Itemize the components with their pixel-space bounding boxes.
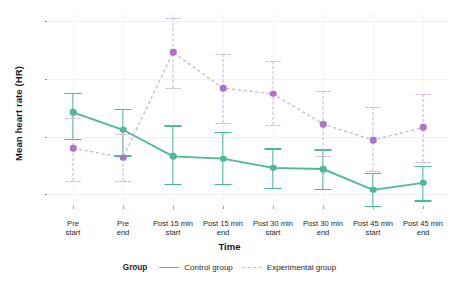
data-point-experimental-5 <box>320 121 327 128</box>
chart-container: Mean heart rate (HR) 65707580 PrestartPr… <box>0 0 459 290</box>
data-point-experimental-4 <box>270 91 277 98</box>
y-tick-mark-80 <box>45 21 47 22</box>
legend-item-experimental[interactable]: Experimental group <box>242 263 336 272</box>
data-point-experimental-2 <box>170 49 177 56</box>
y-tick-mark-65 <box>45 194 47 195</box>
error-bar-cap-upper <box>265 148 282 149</box>
x-tick-mark-5 <box>323 206 324 209</box>
error-bar-cap-upper <box>116 134 131 135</box>
error-bar-cap-lower <box>216 123 231 124</box>
series-lines <box>48 12 448 206</box>
error-bar-cap-upper <box>66 118 81 119</box>
error-bar-cap-lower <box>166 88 181 89</box>
error-bar-cap-lower <box>415 200 432 201</box>
x-tick-mark-7 <box>423 206 424 209</box>
error-bar-cap-lower <box>416 162 431 163</box>
error-bar-cap-lower <box>116 181 131 182</box>
data-point-experimental-6 <box>370 137 377 144</box>
data-point-experimental-3 <box>220 85 227 92</box>
error-bar-cap-upper <box>65 93 82 94</box>
data-point-control-2 <box>170 153 177 160</box>
x-tick-mark-2 <box>173 206 174 209</box>
data-point-control-4 <box>270 165 277 172</box>
error-bar-cap-upper <box>266 61 281 62</box>
error-bar-cap-lower <box>66 181 81 182</box>
error-bar-cap-upper <box>215 132 232 133</box>
x-tick-mark-6 <box>373 206 374 209</box>
error-bar-cap-lower <box>215 184 232 185</box>
error-bar-cap-upper <box>316 91 331 92</box>
x-tick-mark-4 <box>273 206 274 209</box>
error-bar-cap-lower <box>366 171 381 172</box>
data-point-experimental-7 <box>420 124 427 131</box>
legend-label-experimental: Experimental group <box>267 263 336 272</box>
legend-key-solid-line-icon <box>159 267 179 268</box>
error-bar-cap-upper <box>166 18 181 19</box>
error-bar-cap-lower <box>165 184 182 185</box>
legend-title: Group <box>123 263 148 272</box>
error-bar-cap-upper <box>165 125 182 126</box>
error-bar-cap-lower <box>266 125 281 126</box>
data-point-control-1 <box>120 127 127 134</box>
data-point-control-3 <box>220 155 227 162</box>
error-bar-cap-upper <box>216 54 231 55</box>
error-bar-cap-lower <box>315 189 332 190</box>
x-tick-mark-0 <box>73 206 74 209</box>
y-tick-mark-70 <box>45 137 47 138</box>
x-tick-mark-1 <box>123 206 124 209</box>
error-bar-cap-upper <box>415 166 432 167</box>
x-tick-mark-3 <box>223 206 224 209</box>
x-axis-title: Time <box>0 241 459 252</box>
error-bar-cap-lower <box>316 156 331 157</box>
y-axis-title: Mean heart rate (HR) <box>13 44 24 184</box>
error-bar-cap-upper <box>365 173 382 174</box>
data-point-experimental-0 <box>70 145 77 152</box>
y-tick-mark-75 <box>45 79 47 80</box>
data-point-experimental-1 <box>120 154 127 161</box>
legend-item-control[interactable]: Control group <box>159 263 232 272</box>
data-point-control-5 <box>320 166 327 173</box>
x-tick-label-7: Post 45 minend <box>392 219 454 238</box>
error-bar-cap-lower <box>265 188 282 189</box>
data-point-control-7 <box>420 180 427 187</box>
error-bar-cap-upper <box>115 109 132 110</box>
legend-label-control: Control group <box>184 263 232 272</box>
legend: Group Control group Experimental group <box>0 263 459 272</box>
data-point-control-0 <box>70 109 77 116</box>
plot-panel <box>48 12 448 206</box>
data-point-control-6 <box>370 187 377 194</box>
error-bar-cap-upper <box>366 107 381 108</box>
error-bar-cap-upper <box>416 94 431 95</box>
legend-key-dashed-line-icon <box>242 267 262 268</box>
